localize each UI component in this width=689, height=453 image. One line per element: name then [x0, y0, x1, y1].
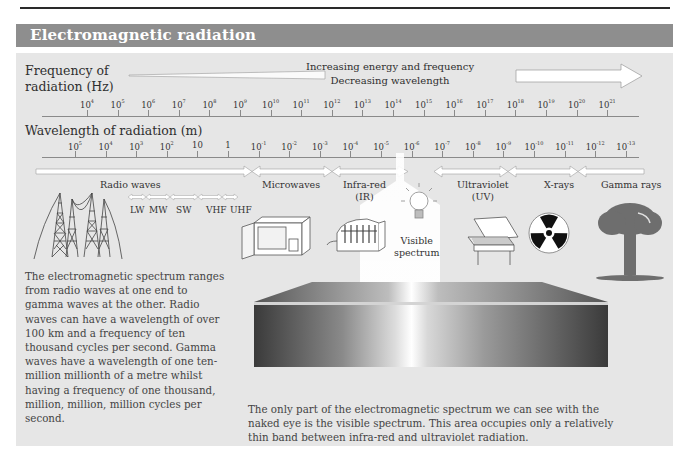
visible-spectrum-caption: The only part of the electromagnetic spe… [248, 402, 628, 445]
frequency-tick-label: 108 [202, 98, 216, 110]
sunbed-icon [466, 217, 522, 267]
frequency-tick-label: 1013 [354, 98, 371, 110]
intro-paragraph: The electromagnetic spectrum ranges from… [25, 269, 225, 425]
visible-line1: Visible [394, 235, 439, 247]
band-label-microwaves: Microwaves [262, 179, 320, 191]
heater-icon [327, 217, 387, 259]
band-label-xrays: X-rays [544, 179, 574, 191]
visible-spectrum-band [252, 273, 612, 369]
infrared-line1: Infra-red [343, 179, 386, 191]
frequency-label-line2: radiation (Hz) [25, 79, 114, 95]
light-bulb-icon [403, 185, 435, 229]
frequency-tick-label: 1010 [262, 98, 279, 110]
frequency-axis-line [42, 116, 639, 117]
infrared-line2: (IR) [343, 191, 386, 203]
microwave-oven-icon [240, 217, 310, 257]
wavelength-tick-label: 10 [192, 140, 203, 150]
mushroom-cloud-icon [594, 201, 666, 283]
frequency-tick-label: 1019 [537, 98, 554, 110]
radio-subband-vhf: VHF [206, 205, 227, 215]
band-label-visible: Visible spectrum [394, 235, 439, 259]
frequency-tick-label: 1018 [507, 98, 524, 110]
direction-caption: Increasing energy and frequency Decreasi… [290, 60, 490, 88]
section-header: Electromagnetic radiation [16, 24, 673, 47]
ultraviolet-line1: Ultraviolet [457, 179, 509, 191]
visible-line2: spectrum [394, 247, 439, 259]
frequency-tick-label: 1020 [568, 98, 585, 110]
top-rule [20, 7, 670, 9]
frequency-tick-label: 105 [111, 98, 125, 110]
direction-line2: Decreasing wavelength [290, 74, 490, 88]
frequency-tick-label: 107 [172, 98, 186, 110]
radio-subband-lw: LW [130, 205, 144, 215]
wavelength-tick-label: 1 [225, 140, 230, 150]
frequency-tick-label: 1015 [415, 98, 432, 110]
frequency-axis-label: Frequency of radiation (Hz) [25, 63, 114, 95]
wavelength-axis-label: Wavelength of radiation (m) [25, 123, 202, 139]
direction-line1: Increasing energy and frequency [290, 60, 490, 74]
radio-subband-arrows [128, 193, 258, 203]
radio-subband-mw: MW [149, 205, 167, 215]
ultraviolet-line2: (UV) [457, 191, 509, 203]
band-label-gamma: Gamma rays [601, 179, 661, 191]
radiation-symbol-icon [527, 211, 571, 255]
frequency-tick-label: 1014 [384, 98, 401, 110]
frequency-tick-label: 1021 [599, 98, 616, 110]
frequency-label-line1: Frequency of [25, 63, 114, 79]
frequency-tick-label: 1016 [446, 98, 463, 110]
frequency-tick-label: 1011 [293, 98, 310, 110]
diagram-panel: Frequency of radiation (Hz) Increasing e… [16, 53, 673, 446]
frequency-tick-label: 104 [80, 98, 94, 110]
frequency-tick-label: 1012 [323, 98, 340, 110]
frequency-tick-label: 106 [141, 98, 155, 110]
frequency-tick-label: 1017 [476, 98, 493, 110]
band-label-radio: Radio waves [100, 179, 161, 191]
frequency-tick-label: 109 [233, 98, 247, 110]
radio-tower-icon [32, 193, 122, 261]
page-title: Electromagnetic radiation [30, 26, 256, 44]
radio-subband-sw: SW [176, 205, 191, 215]
direction-arrow-right [516, 64, 646, 90]
band-label-ultraviolet: Ultraviolet (UV) [457, 179, 509, 203]
radio-subband-uhf: UHF [230, 205, 252, 215]
band-label-infrared: Infra-red (IR) [343, 179, 386, 203]
